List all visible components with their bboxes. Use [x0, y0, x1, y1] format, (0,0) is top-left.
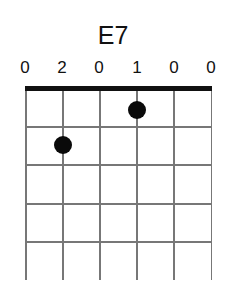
fingering-string-3: 0: [89, 58, 109, 78]
fret-line: [25, 241, 212, 243]
string-line: [62, 88, 64, 280]
finger-dot: [54, 136, 72, 154]
finger-dot: [128, 101, 146, 119]
nut: [25, 86, 212, 91]
string-line: [173, 88, 175, 280]
fingering-string-6: 0: [201, 58, 221, 78]
string-line: [99, 88, 101, 280]
fingering-string-5: 0: [164, 58, 184, 78]
fingering-string-1: 0: [15, 58, 35, 78]
fingering-string-2: 2: [52, 58, 72, 78]
string-line: [211, 88, 213, 280]
chord-title: E7: [0, 20, 226, 50]
fret-line: [25, 203, 212, 205]
string-line: [25, 88, 27, 280]
fingering-string-4: 1: [127, 58, 147, 78]
fret-line: [25, 126, 212, 128]
fret-line: [25, 164, 212, 166]
